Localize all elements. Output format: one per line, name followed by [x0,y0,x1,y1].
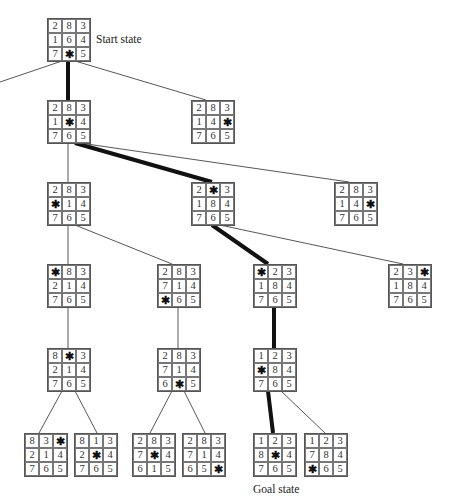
tile: 4 [417,279,431,293]
tile: 4 [211,448,225,462]
tile: 5 [282,462,296,476]
tile: 7 [48,47,62,61]
tile: 5 [282,293,296,307]
tile: 5 [103,462,117,476]
tile: 4 [53,448,67,462]
tile: 8 [25,434,39,448]
tile: 2 [389,265,403,279]
tile: 4 [161,448,175,462]
tile: 2 [25,448,39,462]
tile: 4 [76,363,90,377]
tile: 8 [48,349,62,363]
tile: 6 [62,293,76,307]
tile: 5 [220,129,234,143]
tile: 3 [186,349,200,363]
tile: 8 [206,101,220,115]
tile: 1 [62,363,76,377]
tree-edges [0,0,449,498]
blank-tile: ✱ [62,115,76,129]
tile: 1 [48,33,62,47]
tile: 6 [206,211,220,225]
blank-tile: ✱ [254,363,268,377]
tile: 4 [186,363,200,377]
tile: 3 [282,434,296,448]
tile: 5 [220,211,234,225]
puzzle-board-n4a: 8✱3214765 [47,348,91,392]
tile: 5 [161,462,175,476]
tile: 2 [319,434,333,448]
tile: 2 [335,183,349,197]
tile: 5 [417,293,431,307]
tile: 3 [76,265,90,279]
tile: 2 [133,434,147,448]
puzzle-board-n2b: 2✱3184765 [191,182,235,226]
tile: 7 [48,211,62,225]
tile: 4 [282,363,296,377]
tree-edge [39,391,62,433]
tile: 2 [183,434,197,448]
tile: 8 [268,279,282,293]
tile: 2 [48,101,62,115]
tile: 8 [172,349,186,363]
tile: 1 [254,349,268,363]
blank-tile: ✱ [220,115,234,129]
tile: 8 [319,448,333,462]
puzzle-board-n4b: 2837146✱5 [157,348,201,392]
tile: 8 [268,363,282,377]
tile: 1 [39,448,53,462]
tile: 1 [335,197,349,211]
tile: 1 [172,279,186,293]
blank-tile: ✱ [48,197,62,211]
tile: 4 [186,279,200,293]
tile: 1 [192,197,206,211]
tile: 6 [62,33,76,47]
tile: 4 [76,197,90,211]
tile: 4 [220,197,234,211]
blank-tile: ✱ [211,462,225,476]
tree-edge [75,391,97,433]
tile: 2 [268,349,282,363]
tile: 6 [403,293,417,307]
tile: 1 [254,434,268,448]
tile: 5 [76,293,90,307]
tile: 4 [282,279,296,293]
tile: 8 [206,197,220,211]
tile: 4 [76,279,90,293]
tile: 6 [319,462,333,476]
tile: 2 [192,183,206,197]
tile: 6 [268,293,282,307]
tile: 8 [254,448,268,462]
tile: 1 [172,363,186,377]
tile: 7 [25,462,39,476]
tile: 7 [254,377,268,391]
puzzle-board-n3c: ✱23184765 [253,264,297,308]
tile: 3 [282,265,296,279]
tile: 6 [39,462,53,476]
solution-path-edge [268,391,273,433]
tile: 6 [62,129,76,143]
tile: 3 [76,183,90,197]
tile: 7 [389,293,403,307]
tree-edge [150,391,172,433]
tile: 6 [349,211,363,225]
tree-edge [220,225,403,264]
tile: 5 [186,377,200,391]
tile: 7 [48,129,62,143]
puzzle-board-n5a: 83✱214765 [24,433,68,477]
puzzle-board-n1a: 2831✱4765 [47,100,91,144]
tile: 1 [192,115,206,129]
tile: 8 [147,434,161,448]
tile: 8 [349,183,363,197]
tile: 7 [192,211,206,225]
tile: 2 [268,265,282,279]
tile: 4 [76,33,90,47]
tile: 7 [254,293,268,307]
tile: 1 [62,279,76,293]
puzzle-board-n5b: 8132✱4765 [74,433,118,477]
tile: 1 [389,279,403,293]
tile: 5 [76,377,90,391]
tile: 8 [62,101,76,115]
blank-tile: ✱ [254,265,268,279]
puzzle-board-n4c: 123✱84765 [253,348,297,392]
tile: 8 [62,19,76,33]
